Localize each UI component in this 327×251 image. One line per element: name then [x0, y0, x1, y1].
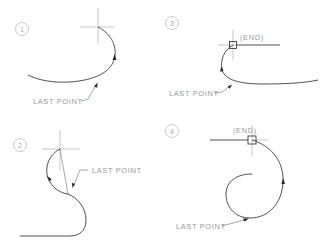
arc-curve [28, 27, 115, 82]
step-number: 4 [170, 128, 174, 135]
end-snap-label: (END) [233, 126, 257, 135]
last-point-label: LAST POINT [176, 222, 226, 231]
last-point-label: LAST POINT [169, 89, 219, 98]
last-point-label: LAST POINT [33, 97, 83, 106]
leader-arrow-icon [243, 219, 249, 222]
end-snap-label: (END) [240, 33, 264, 42]
last-point-label: LAST POINT [92, 166, 142, 175]
step-number: 1 [20, 26, 24, 33]
direction-arrow-icon [281, 178, 285, 184]
chord-line [60, 149, 68, 194]
s-curve [20, 149, 86, 236]
panel-4: 4 (END) LAST POINT [166, 125, 286, 232]
arc-curve [221, 45, 318, 84]
leader-arrow-icon [228, 85, 233, 89]
step-number: 3 [170, 20, 174, 27]
leader-line [81, 85, 96, 101]
panel-1: 1 LAST POINT [16, 8, 117, 106]
spiral-curve [226, 140, 283, 218]
arc-continuation-diagram: 1 LAST POINT 3 (END) LAST POINT 2 LAST P [0, 0, 327, 251]
panel-3: 3 (END) LAST POINT [166, 17, 319, 99]
direction-arrow-icon [113, 54, 117, 60]
direction-arrow-icon [47, 176, 52, 182]
direction-arrow-icon [220, 66, 224, 72]
step-number: 2 [18, 142, 22, 149]
panel-2: 2 LAST POINT [14, 130, 142, 236]
leader-line [74, 170, 88, 185]
